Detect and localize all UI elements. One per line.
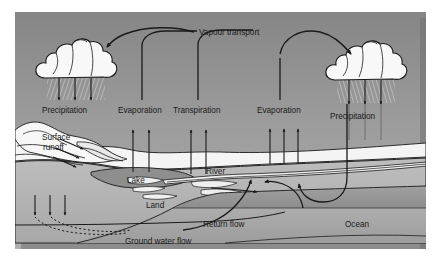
label-precipitation-right: Precipitation [330,112,376,121]
label-land: Land [146,201,165,210]
label-vapour-transport: Vapour transport [199,28,260,37]
label-river: River [206,167,225,176]
label-evaporation-right: Evaporation [257,106,301,115]
label-ocean: Ocean [345,220,370,229]
label-transpiration: Transpiration [173,106,221,115]
label-surface-runoff-line1: Surface [42,133,71,142]
label-precipitation-left: Precipitation [42,106,88,115]
water-cycle-svg: Vapour transport Precipitation Evaporati… [15,12,426,249]
label-surface-runoff-line2: runoff [43,143,65,152]
diagram-page: Vapour transport Precipitation Evaporati… [0,0,439,265]
water-cycle-diagram: Vapour transport Precipitation Evaporati… [15,12,426,249]
label-evaporation-left: Evaporation [118,106,162,115]
label-lake: Lake [127,176,145,185]
label-return-flow: Return flow [203,220,244,229]
label-ground-water-flow: Ground water flow [125,237,192,246]
